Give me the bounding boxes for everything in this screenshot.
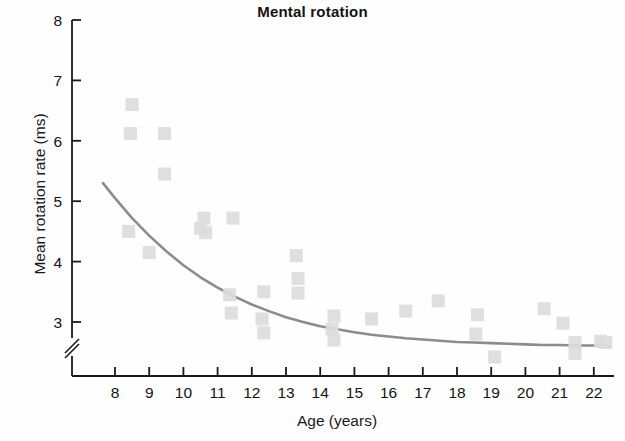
svg-text:4: 4 [53,254,62,271]
axes [65,20,614,376]
svg-text:7: 7 [53,72,62,89]
svg-text:6: 6 [53,133,62,150]
axis-ticks [72,20,594,376]
svg-text:19: 19 [483,384,500,401]
svg-text:13: 13 [277,384,294,401]
svg-text:12: 12 [243,384,260,401]
svg-text:5: 5 [53,193,62,210]
svg-text:21: 21 [551,384,568,401]
fit-curve [103,183,609,346]
svg-text:8: 8 [53,12,62,29]
svg-text:20: 20 [517,384,535,401]
chart-figure: Mental rotation Mean rotation rate (ms) … [0,0,625,441]
data-points [122,98,612,363]
svg-text:8: 8 [111,384,120,401]
svg-text:16: 16 [380,384,397,401]
svg-text:15: 15 [346,384,363,401]
svg-text:14: 14 [312,384,330,401]
svg-text:11: 11 [210,384,226,401]
svg-text:9: 9 [145,384,154,401]
svg-text:17: 17 [414,384,431,401]
svg-text:3: 3 [53,314,62,331]
svg-text:22: 22 [585,384,602,401]
scatter-plot: 3456788910111213141516171819202122 [0,0,625,441]
svg-text:10: 10 [175,384,193,401]
svg-text:18: 18 [448,384,465,401]
